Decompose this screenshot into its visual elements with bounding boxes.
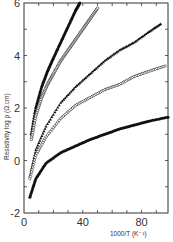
y-tick-label: 6 <box>14 0 20 9</box>
data-point <box>40 134 43 137</box>
data-point <box>47 120 50 123</box>
data-point <box>34 148 37 151</box>
x-tick-label: 0 <box>21 216 27 228</box>
x-axis-label: 1000/T (K⁻¹) <box>110 230 147 238</box>
data-point <box>35 146 38 149</box>
data-point <box>45 125 48 128</box>
y-tick-label: -2 <box>10 207 20 219</box>
data-point <box>55 108 58 111</box>
data-point <box>36 144 39 147</box>
data-point <box>167 116 170 119</box>
data-point <box>52 113 55 116</box>
series-curve-5 <box>28 116 169 199</box>
series-curve-2 <box>30 7 99 141</box>
data-point <box>44 127 47 130</box>
data-point <box>41 132 44 135</box>
data-point <box>96 7 99 10</box>
data-point <box>37 141 40 144</box>
data-series <box>28 2 169 199</box>
resistivity-chart: 04080-20246 1000/T (K⁻¹) Resistivity log… <box>0 0 173 242</box>
data-point <box>38 139 41 142</box>
x-tick-label: 80 <box>135 216 147 228</box>
y-tick-label: 2 <box>14 102 20 114</box>
data-point <box>53 111 56 114</box>
data-point <box>56 106 59 109</box>
y-tick-label: 4 <box>14 50 20 62</box>
x-tick-label: 40 <box>77 216 89 228</box>
y-tick-label: 0 <box>14 155 20 167</box>
data-point <box>78 2 81 5</box>
series-curve-3 <box>28 22 162 177</box>
data-point <box>42 130 45 133</box>
data-point <box>50 115 53 118</box>
data-point <box>39 137 42 140</box>
data-point <box>58 104 61 107</box>
data-point <box>46 122 49 125</box>
y-axis-label: Resistivity log ρ (Ω.cm) <box>3 93 11 160</box>
data-point <box>49 118 52 121</box>
